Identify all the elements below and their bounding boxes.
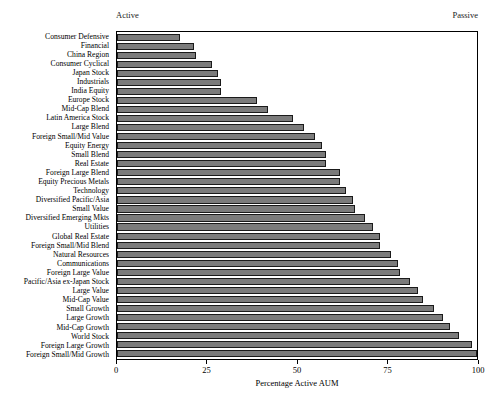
bar-row bbox=[117, 106, 477, 113]
bar-active-segment bbox=[117, 61, 212, 68]
bar-active-segment bbox=[117, 332, 459, 339]
bar-active-segment bbox=[117, 151, 326, 158]
bar-row bbox=[117, 323, 477, 330]
category-label: Foreign Small/Mid Growth bbox=[0, 351, 112, 358]
bar-row bbox=[117, 305, 477, 312]
bar-row bbox=[117, 187, 477, 194]
bar-active-segment bbox=[117, 214, 365, 221]
active-side-label: Active bbox=[116, 10, 139, 20]
bar-active-segment bbox=[117, 242, 380, 249]
bar-active-segment bbox=[117, 251, 391, 258]
x-axis-tick bbox=[206, 360, 207, 364]
bar-active-segment bbox=[117, 115, 293, 122]
x-axis-tick-label: 75 bbox=[383, 365, 392, 375]
category-label: Diversified Emerging Mkts bbox=[0, 214, 112, 221]
category-label: Foreign Large Blend bbox=[0, 169, 112, 176]
bar-row bbox=[117, 242, 477, 249]
category-label: Large Value bbox=[0, 287, 112, 294]
bar-row bbox=[117, 178, 477, 185]
bar-row bbox=[117, 52, 477, 59]
category-label: Large Blend bbox=[0, 123, 112, 130]
bar-active-segment bbox=[117, 196, 353, 203]
bar-active-segment bbox=[117, 260, 398, 267]
bar-row bbox=[117, 70, 477, 77]
bar-row bbox=[117, 160, 477, 167]
category-label: Small Growth bbox=[0, 305, 112, 312]
category-label: China Region bbox=[0, 51, 112, 58]
bar-active-segment bbox=[117, 223, 373, 230]
bar-row bbox=[117, 233, 477, 240]
bar-active-segment bbox=[117, 133, 315, 140]
x-axis-tick-label: 0 bbox=[114, 365, 118, 375]
bar-row bbox=[117, 34, 477, 41]
bar-row bbox=[117, 124, 477, 131]
x-axis: 0255075100 bbox=[116, 360, 478, 366]
bar-active-segment bbox=[117, 296, 423, 303]
category-label: Small Value bbox=[0, 205, 112, 212]
x-axis-tick bbox=[387, 360, 388, 364]
x-axis-tick bbox=[478, 360, 479, 364]
bar-active-segment bbox=[117, 124, 304, 131]
bar-active-segment bbox=[117, 106, 268, 113]
bar-row bbox=[117, 214, 477, 221]
bar-active-segment bbox=[117, 169, 340, 176]
x-axis-tick-label: 25 bbox=[202, 365, 211, 375]
category-label: India Equity bbox=[0, 87, 112, 94]
category-label: Japan Stock bbox=[0, 69, 112, 76]
bar-row bbox=[117, 169, 477, 176]
category-label: Natural Resources bbox=[0, 251, 112, 258]
bar-row bbox=[117, 332, 477, 339]
bar-row bbox=[117, 296, 477, 303]
bar-row bbox=[117, 61, 477, 68]
category-label: Technology bbox=[0, 187, 112, 194]
category-label: Consumer Defensive bbox=[0, 33, 112, 40]
bar-row bbox=[117, 205, 477, 212]
category-label: Latin America Stock bbox=[0, 114, 112, 121]
bar-active-segment bbox=[117, 79, 221, 86]
category-label: Consumer Cyclical bbox=[0, 60, 112, 67]
bar-active-segment bbox=[117, 269, 400, 276]
bar-row bbox=[117, 79, 477, 86]
category-label: Small Blend bbox=[0, 151, 112, 158]
bar-row bbox=[117, 223, 477, 230]
bar-active-segment bbox=[117, 178, 340, 185]
category-label: Mid-Cap Growth bbox=[0, 324, 112, 331]
bar-row bbox=[117, 88, 477, 95]
bar-row bbox=[117, 115, 477, 122]
category-label: Foreign Large Value bbox=[0, 269, 112, 276]
bar-row bbox=[117, 278, 477, 285]
category-label: Real Estate bbox=[0, 160, 112, 167]
bar-active-segment bbox=[117, 52, 196, 59]
x-axis-tick bbox=[297, 360, 298, 364]
bar-active-segment bbox=[117, 205, 355, 212]
category-label: Mid-Cap Blend bbox=[0, 105, 112, 112]
bar-active-segment bbox=[117, 43, 194, 50]
bar-row bbox=[117, 43, 477, 50]
bar-active-segment bbox=[117, 88, 221, 95]
category-label: Foreign Large Growth bbox=[0, 342, 112, 349]
category-label: Equity Energy bbox=[0, 142, 112, 149]
bar-active-segment bbox=[117, 341, 472, 348]
bar-active-segment bbox=[117, 323, 450, 330]
category-label: Financial bbox=[0, 42, 112, 49]
x-axis-tick-label: 50 bbox=[293, 365, 302, 375]
category-label: Pacific/Asia ex-Japan Stock bbox=[0, 278, 112, 285]
bar-active-segment bbox=[117, 314, 443, 321]
bar-row bbox=[117, 260, 477, 267]
x-axis-title: Percentage Active AUM bbox=[116, 378, 478, 388]
bar-row bbox=[117, 142, 477, 149]
x-axis-tick-label: 100 bbox=[472, 365, 485, 375]
bar-row bbox=[117, 97, 477, 104]
bar-active-segment bbox=[117, 160, 326, 167]
bar-active-segment bbox=[117, 97, 257, 104]
category-label: Mid-Cap Value bbox=[0, 296, 112, 303]
category-label: Europe Stock bbox=[0, 96, 112, 103]
bar-active-segment bbox=[117, 142, 322, 149]
active-passive-aum-bar-chart: Active Passive Consumer DefensiveFinanci… bbox=[0, 0, 488, 409]
category-label: Communications bbox=[0, 260, 112, 267]
bar-active-segment bbox=[117, 233, 380, 240]
category-label: World Stock bbox=[0, 333, 112, 340]
bar-active-segment bbox=[117, 70, 218, 77]
bar-active-segment bbox=[117, 287, 418, 294]
bar-row bbox=[117, 196, 477, 203]
